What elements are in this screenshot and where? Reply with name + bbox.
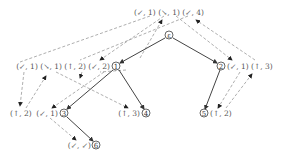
node-5: 5 — [200, 109, 208, 118]
svg-text:5: 5 — [202, 110, 206, 118]
node-2: 2 — [217, 62, 225, 71]
dashed-arrow — [196, 20, 255, 60]
edge-1-3 — [67, 70, 113, 109]
dashed-arrow — [226, 74, 252, 108]
dashed-arrow — [218, 72, 240, 108]
edge-3-6 — [67, 117, 93, 141]
annotation-node-4: (↑, 3) — [118, 109, 140, 118]
svg-text:4: 4 — [144, 110, 149, 118]
dashed-arrow — [26, 76, 46, 108]
svg-text:6: 6 — [94, 142, 99, 150]
edge-1-4 — [119, 70, 144, 109]
annotation-node-6: (↙, ↙) — [68, 141, 91, 150]
tree-edges — [67, 38, 220, 141]
annotation-node-3-b: (↙, 1) — [36, 109, 58, 118]
svg-text:2: 2 — [219, 63, 223, 71]
tree-nodes: ε 1 2 3 4 5 6 — [60, 31, 225, 150]
tree-svg: ε 1 2 3 4 5 6 (↙, 1) (↘, 1) (↙, 4) (↙, 1… — [0, 0, 281, 158]
annotation-node-3-a: (↑, 2) — [10, 109, 32, 118]
dashed-arrows — [20, 16, 255, 140]
edge-root-2 — [173, 38, 217, 63]
dashed-arrow — [176, 16, 232, 60]
svg-text:1: 1 — [114, 63, 118, 71]
node-4: 4 — [142, 109, 150, 118]
svg-text:3: 3 — [62, 110, 66, 118]
dashed-arrow — [140, 20, 162, 58]
tree-diagram: ε 1 2 3 4 5 6 (↙, 1) (↘, 1) (↙, 4) (↙, 1… — [0, 0, 281, 158]
annotation-root: (↙, 1) (↘, 1) (↙, 4) — [134, 8, 204, 17]
dashed-arrow — [56, 72, 128, 108]
annotations: (↙, 1) (↘, 1) (↙, 4) (↙, 1) (↘, 1) (↑, 2… — [10, 8, 273, 150]
node-6: 6 — [92, 141, 100, 150]
annotation-node-5: (↑, 2) — [210, 109, 232, 118]
node-root: ε — [165, 31, 173, 40]
dashed-arrow — [20, 72, 24, 106]
dashed-arrow — [52, 72, 104, 108]
svg-text:ε: ε — [167, 32, 171, 40]
annotation-node-1: (↙, 1) (↘, 1) (↑, 2) (↙, 2) — [16, 62, 110, 71]
node-1: 1 — [112, 62, 120, 71]
dashed-arrow — [80, 72, 82, 78]
annotation-node-2: (↙, 1) (↑, 3) — [227, 62, 273, 71]
node-3: 3 — [60, 109, 68, 118]
edge-2-5 — [205, 70, 220, 109]
dashed-arrow — [100, 16, 164, 60]
